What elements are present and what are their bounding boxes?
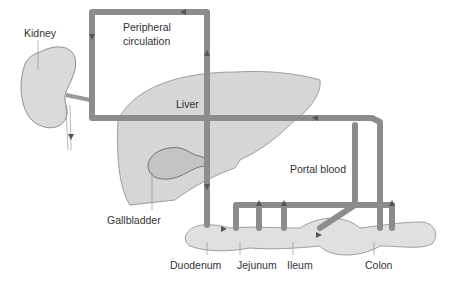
enterohepatic-diagram: [0, 0, 455, 281]
label-colon: Colon: [365, 259, 392, 271]
label-ileum: Ileum: [287, 259, 313, 271]
kidney-shape: [21, 47, 76, 128]
intestine-shape: [185, 218, 436, 255]
renal-vessel: [66, 95, 90, 100]
label-gallbladder: Gallbladder: [107, 214, 161, 226]
label-liver: Liver: [176, 98, 199, 110]
label-kidney: Kidney: [24, 27, 56, 39]
label-portal-blood: Portal blood: [290, 163, 346, 175]
label-jejunum: Jejunum: [237, 259, 277, 271]
label-peripheral-line1: Peripheral: [123, 21, 171, 33]
liver-shape: [118, 71, 321, 205]
label-duodenum: Duodenum: [170, 259, 221, 271]
label-peripheral-line2: circulation: [123, 35, 170, 47]
